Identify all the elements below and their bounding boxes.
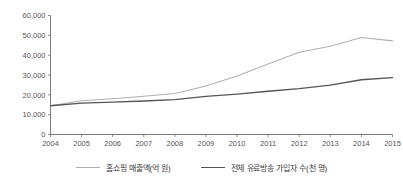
x-axis-tick-label: 2005 xyxy=(73,139,90,148)
x-axis-tick-label: 2011 xyxy=(260,139,276,148)
x-axis-tick-label: 2013 xyxy=(322,139,339,148)
legend-entry-paytv-subscribers: 전체 유료방송 가입자 수(천 명) xyxy=(201,162,327,173)
chart-legend: 홈쇼핑 매출액(억 원) 전체 유료방송 가입자 수(천 명) xyxy=(0,154,403,180)
x-axis-tick-label: 2012 xyxy=(291,139,308,148)
x-axis-tick-label: 2009 xyxy=(198,139,215,148)
x-axis-tick-label: 2014 xyxy=(353,139,370,148)
y-axis-tick-label: 60,000 xyxy=(23,11,46,20)
y-axis-tick-label: 30,000 xyxy=(23,71,46,80)
y-axis-tick-label: 50,000 xyxy=(23,31,46,40)
light-line-swatch xyxy=(76,167,100,168)
x-axis: 2004200520062007200820092010201120122013… xyxy=(42,135,401,148)
line-chart: 010,00020,00030,00040,00050,00060,000 20… xyxy=(0,0,403,182)
legend-entry-homeshopping-sales: 홈쇼핑 매출액(억 원) xyxy=(76,162,171,173)
x-axis-tick-label: 2008 xyxy=(167,139,184,148)
series-line-paytv-subscribers xyxy=(51,78,393,106)
y-axis-tick-label: 40,000 xyxy=(23,51,46,60)
legend-label: 홈쇼핑 매출액(억 원) xyxy=(106,162,171,173)
y-axis: 010,00020,00030,00040,00050,00060,000 xyxy=(23,11,51,139)
x-axis-tick-label: 2015 xyxy=(384,139,401,148)
x-axis-tick-label: 2007 xyxy=(135,139,152,148)
legend-label: 전체 유료방송 가입자 수(천 명) xyxy=(231,162,327,173)
y-axis-tick-label: 10,000 xyxy=(23,110,46,119)
x-axis-tick-label: 2006 xyxy=(104,139,121,148)
y-axis-tick-label: 20,000 xyxy=(23,91,46,100)
data-series-group xyxy=(51,38,393,106)
x-axis-tick-label: 2004 xyxy=(42,139,59,148)
dark-line-swatch xyxy=(201,167,225,168)
x-axis-tick-label: 2010 xyxy=(229,139,246,148)
